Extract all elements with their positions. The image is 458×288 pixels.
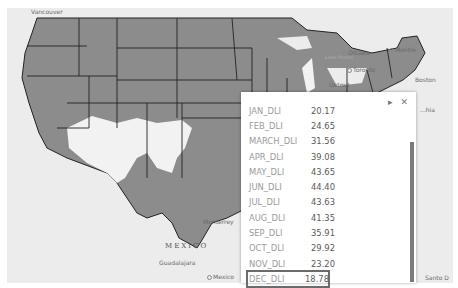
scrollbar-thumb[interactable] [410,142,414,282]
city-dot-icon [207,275,212,280]
attribute-row: OCT_DLI29.92 [247,241,395,256]
attribute-row: JUL_DLI43.63 [247,195,395,210]
label-montreal: Montré [389,46,416,53]
attribute-row-highlighted: DEC_DLI18.78 [247,271,329,286]
attribute-row: NOV_DLI23.20 [247,256,395,271]
attribute-row: JAN_DLI20.17 [247,103,395,118]
label-mexico-city: Mexico [207,273,234,280]
attribute-row: MARCH_DLI31.56 [247,134,395,149]
attribute-row: FEB_DLI24.65 [247,118,395,133]
label-detroit: Detroit [329,81,350,88]
attribute-row: MAY_DLI43.65 [247,164,395,179]
label-mexico-country: MEXICO [165,242,208,250]
label-toronto: Toronto [347,66,375,73]
attribute-row: APR_DLI39.08 [247,149,395,164]
city-dot-icon [389,48,394,53]
attribute-row: AUG_DLI41.35 [247,210,395,225]
label-guadalajara: Guadalajara [159,259,195,266]
attribute-row: SEP_DLI35.91 [247,225,395,240]
attribute-row: JUN_DLI44.40 [247,179,395,194]
label-vancouver: Vancouver [31,8,63,15]
label-boston: Boston [415,76,436,83]
label-santo-domingo: Santo D [425,274,449,281]
label-lake-huron: Lake Huron [325,54,353,60]
feature-info-popup: ▸ ✕ JAN_DLI20.17 FEB_DLI24.65 MARCH_DLI3… [241,92,416,283]
close-icon[interactable]: ✕ [400,97,408,107]
label-monterrey: Monterrey [203,218,234,225]
attribute-list: JAN_DLI20.17 FEB_DLI24.65 MARCH_DLI31.56… [247,103,395,287]
label-philadelphia: ...hia [420,106,435,113]
city-dot-icon [347,68,352,73]
popup-scrollbar[interactable] [410,110,414,282]
